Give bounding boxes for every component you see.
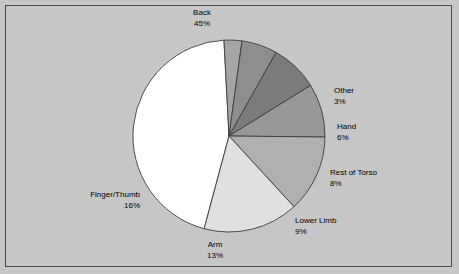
- pie-label-rest-of-torso: Rest of Torso 8%: [330, 168, 440, 189]
- pie-label-other-name: Other: [334, 86, 414, 97]
- pie-label-back: Back 45%: [164, 8, 240, 29]
- pie-label-hand-value: 6%: [337, 133, 417, 144]
- pie-label-finger-thumb-name: Finger/Thumb: [44, 190, 140, 201]
- pie-label-other: Other 3%: [334, 86, 414, 107]
- pie-label-rest-of-torso-name: Rest of Torso: [330, 168, 440, 179]
- pie-label-hand-name: Hand: [337, 122, 417, 133]
- chart-canvas: Back 45% Other 3% Hand 6% Rest of Torso …: [0, 0, 459, 274]
- pie-label-back-name: Back: [164, 8, 240, 19]
- pie-label-arm: Arm 13%: [178, 240, 252, 261]
- pie-label-arm-value: 13%: [178, 251, 252, 262]
- pie-label-finger-thumb-value: 16%: [44, 201, 140, 212]
- pie-label-rest-of-torso-value: 8%: [330, 179, 440, 190]
- pie-label-finger-thumb: Finger/Thumb 16%: [44, 190, 140, 211]
- pie-label-arm-name: Arm: [178, 240, 252, 251]
- pie-label-lower-limb-name: Lower Limb: [295, 216, 395, 227]
- pie-label-back-value: 45%: [164, 19, 240, 30]
- pie-slice-group: [133, 40, 325, 232]
- pie-label-lower-limb-value: 9%: [295, 227, 395, 238]
- pie-label-lower-limb: Lower Limb 9%: [295, 216, 395, 237]
- pie-label-other-value: 3%: [334, 97, 414, 108]
- pie-label-hand: Hand 6%: [337, 122, 417, 143]
